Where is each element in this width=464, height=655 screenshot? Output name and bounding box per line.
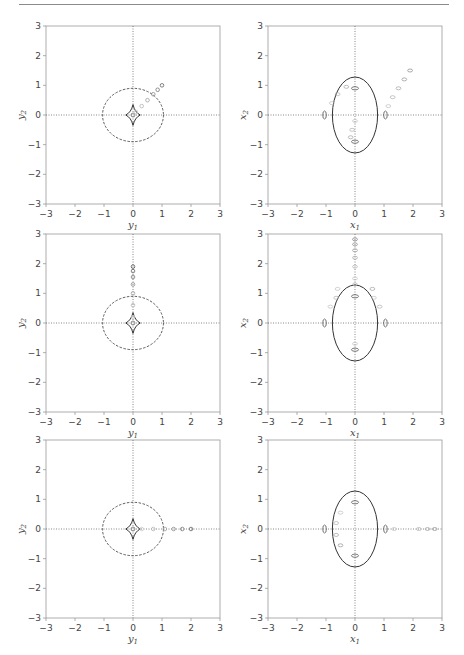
- y-tick-label: 1: [35, 494, 41, 504]
- y-axis-label: x2: [237, 109, 250, 120]
- source-position-marker: [152, 527, 156, 531]
- y-tick-label: −2: [250, 583, 263, 593]
- x-tick-label: 0: [130, 417, 136, 427]
- y-tick-label: −2: [250, 169, 263, 179]
- image-track-marker: [350, 128, 355, 131]
- y-tick-label: 3: [35, 21, 41, 31]
- x-tick-label: −1: [97, 623, 110, 633]
- y-axis-label: y2: [15, 523, 28, 535]
- y-tick-label: −3: [250, 407, 263, 417]
- y-tick-label: −1: [250, 554, 263, 564]
- source-position-marker: [160, 84, 164, 88]
- y-tick-label: 0: [257, 318, 263, 328]
- image-track-marker: [408, 69, 413, 72]
- x-tick-label: −3: [39, 417, 52, 427]
- image-track-marker: [402, 78, 407, 81]
- y-tick-label: 3: [257, 435, 263, 445]
- y-tick-label: −2: [28, 169, 41, 179]
- x-tick-label: −1: [97, 417, 110, 427]
- y-tick-label: −1: [28, 348, 41, 358]
- caustic-astroid: [126, 519, 141, 540]
- x-tick-label: 2: [188, 417, 194, 427]
- source-position-marker: [140, 104, 144, 108]
- x-tick-label: −3: [39, 623, 52, 633]
- caustic-astroid: [126, 313, 141, 334]
- y-tick-label: −1: [28, 554, 41, 564]
- x-tick-label: 0: [130, 623, 136, 633]
- panel-row3-right: −3−3−2−2−1−100112233x1x2: [232, 436, 464, 655]
- panel-row2-left: −3−3−2−2−1−100112233y1y2: [0, 218, 232, 436]
- y-tick-label: 1: [257, 80, 263, 90]
- panel-row1-right: −3−3−2−2−1−100112233x1x2: [232, 0, 464, 218]
- x-tick-label: −1: [319, 623, 332, 633]
- source-position-marker: [156, 88, 160, 92]
- y-tick-label: −2: [28, 377, 41, 387]
- image-track-marker: [396, 87, 401, 90]
- y-tick-label: 3: [257, 21, 263, 31]
- image-track-marker: [370, 287, 375, 290]
- x-axis-label: y1: [127, 633, 138, 646]
- image-track-marker: [334, 522, 339, 525]
- x-tick-label: −2: [68, 417, 81, 427]
- y-tick-label: 3: [35, 435, 41, 445]
- y-tick-label: 1: [257, 494, 263, 504]
- y-tick-label: 1: [35, 80, 41, 90]
- y-tick-label: 2: [257, 259, 263, 269]
- y-tick-label: 2: [257, 51, 263, 61]
- y-axis-label: y2: [15, 317, 28, 329]
- image-contour: [384, 525, 388, 533]
- x-tick-label: −3: [261, 623, 274, 633]
- image-track-marker: [328, 305, 333, 308]
- y-tick-label: −1: [28, 140, 41, 150]
- y-tick-label: −1: [250, 348, 263, 358]
- x-tick-label: 2: [410, 623, 416, 633]
- x-tick-label: −3: [261, 417, 274, 427]
- y-tick-label: −2: [250, 377, 263, 387]
- image-contour: [384, 111, 388, 119]
- y-tick-label: −1: [250, 140, 263, 150]
- x-tick-label: 0: [352, 623, 358, 633]
- y-tick-label: 3: [35, 229, 41, 239]
- image-track-marker: [338, 511, 343, 514]
- x-tick-label: 2: [188, 623, 194, 633]
- y-tick-label: −3: [28, 613, 41, 623]
- panel-row2-right: −3−3−2−2−1−100112233x1x2: [232, 218, 464, 436]
- image-track-marker: [338, 544, 343, 547]
- x-tick-label: 0: [352, 417, 358, 427]
- y-tick-label: 2: [35, 51, 41, 61]
- source-position-marker: [146, 98, 150, 102]
- panel-row3-left: −3−3−2−2−1−100112233y1y2: [0, 436, 232, 655]
- x-tick-label: −1: [319, 417, 332, 427]
- image-track-marker: [334, 533, 339, 536]
- y-tick-label: −3: [28, 407, 41, 417]
- x-tick-label: 3: [217, 623, 223, 633]
- x-tick-label: 3: [439, 417, 445, 427]
- caustic-astroid: [126, 105, 141, 126]
- x-tick-label: 1: [159, 417, 165, 427]
- y-tick-label: 1: [35, 288, 41, 298]
- x-tick-label: 1: [381, 417, 387, 427]
- y-tick-label: 2: [35, 465, 41, 475]
- image-track-marker: [348, 136, 353, 139]
- panel-row1-left: −3−3−2−2−1−100112233y1y2: [0, 0, 232, 218]
- image-track-marker: [390, 96, 395, 99]
- x-tick-label: 2: [410, 417, 416, 427]
- y-tick-label: −3: [28, 199, 41, 209]
- image-track-marker: [344, 85, 349, 88]
- image-contour: [384, 319, 388, 327]
- y-tick-label: 2: [35, 259, 41, 269]
- y-tick-label: −3: [250, 199, 263, 209]
- y-tick-label: 1: [257, 288, 263, 298]
- y-tick-label: 3: [257, 229, 263, 239]
- y-tick-label: 0: [257, 110, 263, 120]
- image-track-marker: [335, 287, 340, 290]
- y-tick-label: −2: [28, 583, 41, 593]
- x-tick-label: 1: [159, 623, 165, 633]
- x-axis-label: x1: [350, 633, 360, 646]
- y-axis-label: x2: [237, 523, 250, 534]
- y-tick-label: 0: [35, 524, 41, 534]
- x-tick-label: 3: [217, 417, 223, 427]
- y-tick-label: 2: [257, 465, 263, 475]
- x-tick-label: 3: [439, 623, 445, 633]
- x-tick-label: 1: [381, 623, 387, 633]
